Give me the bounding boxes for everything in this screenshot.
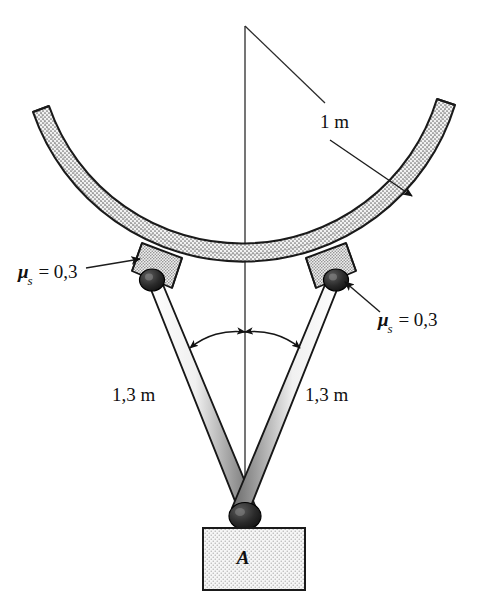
diagram-canvas (0, 0, 487, 604)
pin-bottom (229, 503, 261, 530)
friction-right-leader (345, 282, 380, 312)
radius-dimension-label: 1 m (320, 112, 349, 131)
friction-label-left: μs = 0,3 (18, 262, 78, 285)
link-right-length-label: 1,3 m (305, 385, 348, 404)
mu-subscript-left: s (28, 273, 33, 288)
friction-label-right: μs = 0,3 (378, 310, 438, 333)
pin-left (140, 269, 165, 291)
mu-value-right: 0,3 (414, 309, 438, 330)
mu-symbol-right: μ (378, 309, 389, 330)
curved-rod (33, 99, 455, 262)
mu-symbol-left: μ (18, 261, 29, 282)
link-left-length-label: 1,3 m (112, 385, 155, 404)
mu-relation-right: = (398, 309, 409, 330)
link-left (146, 277, 256, 511)
friction-left-leader (86, 259, 140, 268)
block-a-label: A (237, 548, 250, 567)
mu-relation-left: = (38, 261, 49, 282)
mechanics-figure: μs = 0,3 μs = 0,3 1 m 1,3 m 1,3 m A (0, 0, 487, 604)
block-a (203, 528, 305, 590)
mu-value-left: 0,3 (54, 261, 78, 282)
pin-right (324, 269, 349, 291)
mu-subscript-right: s (388, 321, 393, 336)
